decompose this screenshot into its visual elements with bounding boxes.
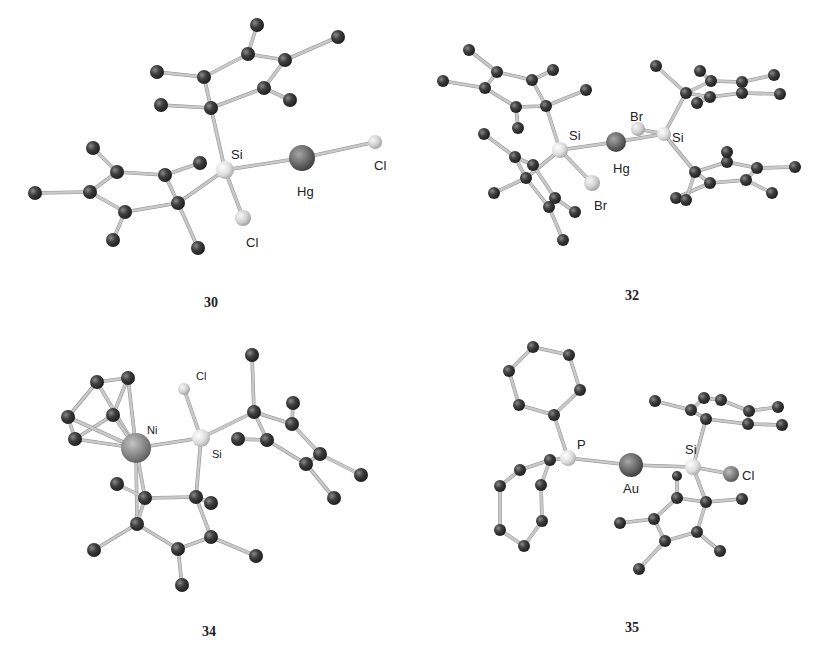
atoms <box>61 348 368 592</box>
atom-c <box>700 496 712 508</box>
atom-c <box>772 401 784 413</box>
atom-c <box>547 64 559 76</box>
atom-cl <box>178 383 190 395</box>
atom-c <box>520 172 532 184</box>
atom-c <box>512 122 524 134</box>
atom-hg <box>606 132 626 152</box>
atom-c <box>535 479 547 491</box>
atom-c <box>510 101 522 113</box>
atom-label-br: Br <box>594 198 608 213</box>
bond-h5-h10 <box>94 524 137 550</box>
atom-c <box>204 101 218 115</box>
compound-number-30: 30 <box>204 295 218 310</box>
bond-b5-b1 <box>125 203 178 212</box>
atom-c <box>544 454 556 466</box>
atom-label-cl: Cl <box>742 468 754 483</box>
atom-c <box>245 348 259 362</box>
atom-c <box>68 432 82 446</box>
atom-c <box>479 82 491 94</box>
atom-c <box>191 241 205 255</box>
bond-Si-a1 <box>211 108 225 170</box>
molecular-structures-figure: SiHgClCl 30 SiHgBrSiBr 32 ClNiSi 34 PAuS… <box>0 0 821 657</box>
atom-c <box>789 161 801 173</box>
atom-label-si: Si <box>569 128 581 143</box>
atom-c <box>776 419 788 431</box>
atom-c <box>766 187 778 199</box>
atom-c <box>704 91 716 103</box>
atom-c <box>86 141 100 155</box>
bond-h4-h5 <box>137 524 178 549</box>
atom-c <box>503 365 515 377</box>
atom-c <box>121 371 135 385</box>
atom-p <box>560 450 576 466</box>
atom-c <box>540 100 552 112</box>
atom-c <box>197 70 211 84</box>
atom-label-p: P <box>577 437 586 452</box>
atom-c <box>580 84 592 96</box>
atom-c <box>204 496 218 510</box>
atom-c <box>204 530 218 544</box>
atom-c <box>680 87 692 99</box>
atom-c <box>171 542 185 556</box>
atom-br <box>584 175 600 191</box>
atom-c <box>691 97 703 109</box>
atom-c <box>175 578 189 592</box>
atom-label-cl: Cl <box>374 158 386 173</box>
atom-c <box>672 471 682 481</box>
atom-c <box>286 396 300 410</box>
atom-label-si: Si <box>231 147 243 162</box>
atom-c <box>158 168 172 182</box>
atom-c <box>698 392 710 404</box>
atom-c <box>491 66 503 78</box>
atom-c <box>299 457 313 471</box>
atom-label-si: Si <box>212 448 222 460</box>
atom-c <box>685 404 697 416</box>
atom-cl <box>235 210 251 226</box>
atom-c <box>313 447 327 461</box>
atom-c <box>649 395 661 407</box>
atom-c <box>154 98 168 112</box>
atom-c <box>257 81 271 95</box>
atom-c <box>90 375 104 389</box>
atom-c <box>110 165 124 179</box>
atom-label-cl: Cl <box>246 235 258 250</box>
atom-c <box>715 394 727 406</box>
atom-c <box>714 545 726 557</box>
atom-c <box>241 47 255 61</box>
bond-a4-a9 <box>285 37 338 60</box>
atom-c <box>543 201 555 213</box>
atom-c <box>751 162 763 174</box>
atom-c <box>694 65 706 77</box>
atom-c <box>526 74 538 86</box>
atom-c <box>189 490 203 504</box>
atom-c <box>680 194 692 206</box>
atom-c <box>130 517 144 531</box>
panel-35: PAuSiCl 35 <box>494 341 788 635</box>
atom-c <box>736 76 748 88</box>
atom-c <box>659 535 671 547</box>
atom-c <box>150 65 164 79</box>
atom-c <box>527 341 539 353</box>
atom-c <box>536 515 548 527</box>
atom-si <box>657 127 671 141</box>
atom-c <box>437 75 449 87</box>
atom-si <box>685 459 701 475</box>
atom-c <box>518 540 530 552</box>
atom-c <box>650 60 662 72</box>
atom-si <box>192 429 210 447</box>
atom-cl <box>723 466 739 482</box>
atom-c <box>691 526 703 538</box>
atom-c <box>736 493 748 505</box>
atoms <box>494 341 788 575</box>
atom-c <box>118 205 132 219</box>
atom-c <box>494 480 506 492</box>
atom-c <box>171 196 185 210</box>
atom-c <box>28 186 42 200</box>
bond-b4-b7 <box>35 192 90 193</box>
atom-label-au: Au <box>623 481 639 496</box>
atom-c <box>260 433 274 447</box>
atom-c <box>614 517 626 529</box>
atom-label-hg: Hg <box>613 161 630 176</box>
atom-c <box>574 384 586 396</box>
atom-cl <box>368 135 382 149</box>
